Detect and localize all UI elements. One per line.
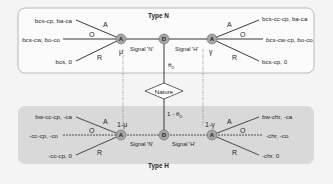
belief-mu: μ — [119, 48, 123, 56]
payoff-type-h-left-r: -cc-cp, 0 — [48, 152, 72, 159]
belief-one-minus-gamma: 1-γ — [205, 121, 215, 129]
payoff-type-h-right-r: -chr, 0 — [262, 152, 280, 159]
type-n-title: Type N — [148, 12, 169, 20]
payoff-type-h-left-o: -cc-cp, -co — [29, 132, 58, 139]
payoff-type-n-right-r: bcs-cp, 0 — [262, 58, 288, 65]
type-n-sender-node: D — [159, 34, 169, 44]
payoff-type-n-left-r: bcs, 0 — [55, 58, 72, 65]
svg-text:A: A — [119, 36, 124, 42]
payoff-type-n-left-a: bcs-cp, ba-ca — [35, 17, 73, 24]
payoff-type-h-left-a: bw-cc-cp, -ca — [35, 113, 72, 120]
game-tree-diagram: Type N Type H Nature θD 1 - θD A — [0, 0, 333, 184]
type-n-left-action-r: R — [97, 54, 102, 61]
type-n-left-action-o: O — [89, 31, 95, 38]
svg-text:D: D — [162, 36, 167, 42]
payoff-type-n-right-o: bcs-cw-cp, bo-co — [266, 36, 313, 43]
type-h-receiver-right-node: A — [207, 130, 217, 140]
type-n-right-action-r: R — [232, 54, 237, 61]
type-n-right-action-o: O — [240, 31, 246, 38]
payoff-type-h-right-a: bw-chr, -ca — [262, 113, 293, 120]
type-h-receiver-left-node: A — [116, 130, 126, 140]
type-h-sender-node: D — [159, 130, 169, 140]
type-n-receiver-left-node: A — [116, 34, 126, 44]
svg-text:A: A — [119, 132, 124, 138]
belief-gamma: γ — [209, 48, 213, 56]
payoff-type-h-right-o: -chr, -co — [266, 132, 289, 139]
type-h-left-action-r: R — [97, 149, 102, 156]
payoff-type-n-left-o: bcs-cw, bo-co — [22, 36, 60, 43]
type-n-left-action-a: A — [103, 21, 108, 28]
type-h-left-action-a: A — [103, 118, 108, 125]
payoff-type-n-right-a: bcs-cc-cp, ba-ca — [262, 15, 308, 22]
svg-text:A: A — [210, 36, 215, 42]
type-h-right-action-o: O — [240, 127, 246, 134]
type-n-right-action-a: A — [227, 21, 232, 28]
type-n-signal-h-label: Signal 'H' — [175, 46, 198, 52]
type-h-right-action-r: R — [232, 149, 237, 156]
type-h-left-action-o: O — [89, 127, 95, 134]
type-h-signal-h-label: Signal 'H' — [172, 141, 195, 147]
type-h-title: Type H — [148, 162, 169, 170]
type-n-receiver-right-node: A — [207, 34, 217, 44]
svg-text:A: A — [210, 132, 215, 138]
type-h-signal-n-label: Signal 'N' — [130, 141, 153, 147]
nature-label: Nature — [155, 88, 174, 95]
type-h-right-action-a: A — [227, 118, 232, 125]
belief-one-minus-mu: 1-μ — [117, 121, 127, 129]
svg-text:D: D — [162, 132, 167, 138]
type-n-signal-n-label: Signal 'N' — [130, 46, 153, 52]
